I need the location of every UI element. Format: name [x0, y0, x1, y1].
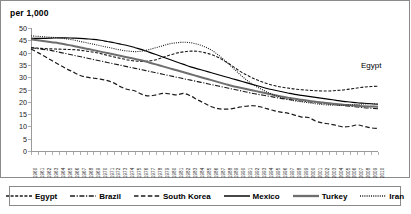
legend-label: Mexico: [253, 192, 280, 201]
series-line: [31, 49, 378, 128]
legend-swatch-dashed: [134, 192, 160, 200]
legend-swatch-solid-thin: [224, 192, 250, 200]
legend-label: Brazil: [99, 192, 121, 201]
legend-swatch-solid-thick: [293, 192, 319, 200]
legend-label: South Korea: [163, 192, 211, 201]
legend-item-turkey[interactable]: Turkey: [293, 192, 348, 201]
egypt-annotation: Egypt: [361, 61, 381, 70]
series-line: [31, 48, 378, 91]
legend-swatch-dash-dot: [70, 192, 96, 200]
legend-swatch-dotted-fine: [360, 192, 386, 200]
legend-item-brazil[interactable]: Brazil: [70, 192, 121, 201]
legend-item-mexico[interactable]: Mexico: [224, 192, 280, 201]
chart-legend: EgyptBrazilSouth KoreaMexicoTurkeyIran: [9, 186, 401, 206]
legend-label: Iran: [389, 192, 404, 201]
legend-swatch-dotted-coarse: [6, 192, 32, 200]
legend-item-south-korea[interactable]: South Korea: [134, 192, 211, 201]
chart-frame: per 1,000 05101520253035404550 196019611…: [0, 0, 410, 178]
series-lines: [1, 1, 411, 179]
legend-label: Egypt: [35, 192, 57, 201]
legend-item-egypt[interactable]: Egypt: [6, 192, 57, 201]
plot-area: 05101520253035404550 1960196119621963196…: [1, 1, 411, 179]
legend-item-iran[interactable]: Iran: [360, 192, 404, 201]
legend-label: Turkey: [322, 192, 348, 201]
series-line: [31, 39, 378, 106]
